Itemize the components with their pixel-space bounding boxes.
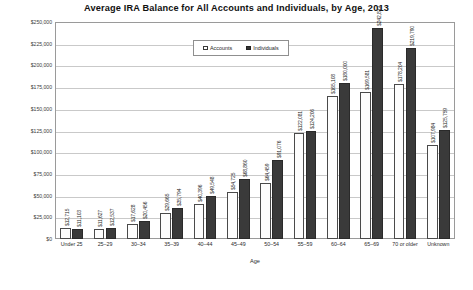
- bar-value-label: $29,665: [163, 194, 169, 211]
- y-axis-tick-label: $125,000: [4, 128, 52, 134]
- bar-group: $11,627$12,537: [88, 22, 121, 239]
- x-axis-tick-label: 40–44: [188, 241, 221, 247]
- y-axis-tick-label: $50,000: [4, 193, 52, 199]
- bar-accounts: $40,396: [194, 204, 205, 239]
- bar-individuals: $49,548: [206, 196, 217, 239]
- bar-group: $29,665$35,794: [155, 22, 188, 239]
- x-axis-tick-label: Under 25: [55, 241, 88, 247]
- bar-group: $169,581$242,812: [355, 22, 388, 239]
- bar-individuals: $68,860: [239, 179, 250, 239]
- bar-accounts: $178,204: [394, 84, 405, 239]
- bar-accounts: $54,725: [227, 192, 238, 240]
- bar-individuals: $12,537: [106, 228, 117, 239]
- bar-group: $12,715$11,103: [55, 22, 88, 239]
- bar-value-label: $49,548: [209, 177, 215, 194]
- bar-value-label: $12,537: [109, 209, 115, 226]
- bar-value-label: $122,081: [297, 111, 303, 131]
- x-axis-tick-label: 45–49: [222, 241, 255, 247]
- bar-individuals: $242,812: [372, 28, 383, 239]
- bar-accounts: $169,581: [360, 92, 371, 239]
- bar-accounts: $64,459: [260, 183, 271, 239]
- y-axis-tick-label: $175,000: [4, 84, 52, 90]
- y-axis-tick-label: $225,000: [4, 41, 52, 47]
- x-axis-tick-label: 60–64: [322, 241, 355, 247]
- bar-accounts: $12,715: [60, 228, 71, 239]
- x-axis-ticks: Under 2525–2930–3435–3940–4445–4950–5455…: [55, 241, 455, 257]
- bar-accounts: $11,627: [94, 229, 105, 239]
- y-axis-tick-label: $0: [4, 236, 52, 242]
- bar-accounts: $122,081: [294, 133, 305, 239]
- bar-individuals: $35,794: [172, 208, 183, 239]
- legend-swatch-icon: [246, 46, 251, 51]
- y-axis-tick-label: $200,000: [4, 62, 52, 68]
- bar-accounts: $165,108: [327, 96, 338, 239]
- bar-value-label: $178,204: [397, 62, 403, 82]
- bar-value-label: $169,581: [363, 70, 369, 90]
- bar-value-label: $91,076: [275, 141, 281, 158]
- x-axis-tick-label: 65–69: [355, 241, 388, 247]
- bar-value-label: $17,628: [130, 204, 136, 221]
- bar-individuals: $125,759: [439, 130, 450, 239]
- bar-individuals: $11,103: [72, 229, 83, 239]
- bar-accounts: $29,665: [160, 213, 171, 239]
- bar-value-label: $11,627: [97, 210, 103, 227]
- x-axis-tick-label: Unknown: [422, 241, 455, 247]
- bar-individuals: $219,790: [406, 48, 417, 239]
- bar-value-label: $11,103: [75, 210, 81, 227]
- bar-value-label: $219,790: [409, 26, 415, 46]
- bar-value-label: $242,812: [375, 6, 381, 26]
- bar-value-label: $180,000: [342, 61, 348, 81]
- legend-label: Accounts: [210, 45, 232, 51]
- bar-value-label: $125,759: [442, 108, 448, 128]
- bar-individuals: $91,076: [272, 160, 283, 239]
- legend-item-accounts[interactable]: Accounts: [203, 45, 232, 51]
- bar-group: $178,204$219,790: [388, 22, 421, 239]
- bar-individuals: $180,000: [339, 83, 350, 239]
- y-axis-tick-label: $250,000: [4, 19, 52, 25]
- chart-container: Average IRA Balance for All Accounts and…: [0, 0, 473, 290]
- x-axis-tick-label: 70 or older: [388, 241, 421, 247]
- x-axis-tick-label: 50–54: [255, 241, 288, 247]
- chart-title: Average IRA Balance for All Accounts and…: [0, 3, 473, 13]
- bar-accounts: $107,984: [427, 145, 438, 239]
- chart-legend: AccountsIndividuals: [193, 40, 289, 56]
- y-axis-tick-label: $25,000: [4, 214, 52, 220]
- bar-group: $122,081$124,206: [288, 22, 321, 239]
- bar-value-label: $20,456: [142, 202, 148, 219]
- legend-swatch-icon: [203, 46, 208, 51]
- bar-value-label: $124,206: [309, 109, 315, 129]
- bar-accounts: $17,628: [127, 224, 138, 239]
- legend-label: Individuals: [253, 45, 278, 51]
- y-axis-tick-label: $100,000: [4, 149, 52, 155]
- x-axis-tick-label: 55–59: [288, 241, 321, 247]
- bar-group: $165,108$180,000: [322, 22, 355, 239]
- bar-value-label: $54,725: [230, 172, 236, 189]
- bar-value-label: $12,715: [63, 209, 69, 226]
- bar-value-label: $64,459: [263, 164, 269, 181]
- x-axis-tick-label: 35–39: [155, 241, 188, 247]
- legend-item-individuals[interactable]: Individuals: [246, 45, 278, 51]
- bar-value-label: $68,860: [242, 160, 248, 177]
- bar-value-label: $107,984: [430, 123, 436, 143]
- bar-value-label: $165,108: [330, 74, 336, 94]
- bar-value-label: $35,794: [175, 189, 181, 206]
- bar-value-label: $40,396: [197, 185, 203, 202]
- y-axis-tick-label: $75,000: [4, 171, 52, 177]
- bar-individuals: $124,206: [306, 131, 317, 239]
- x-axis-tick-label: 25–29: [88, 241, 121, 247]
- y-axis-tick-label: $150,000: [4, 106, 52, 112]
- bar-individuals: $20,456: [139, 221, 150, 239]
- x-axis-tick-label: 30–34: [122, 241, 155, 247]
- x-axis-title: Age: [55, 258, 455, 264]
- bar-group: $107,984$125,759: [422, 22, 455, 239]
- bar-group: $17,628$20,456: [122, 22, 155, 239]
